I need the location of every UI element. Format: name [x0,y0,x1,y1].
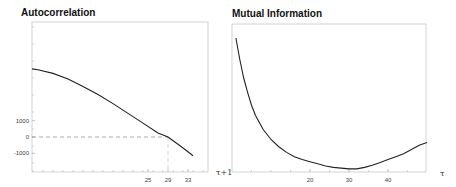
charts-canvas: 10000-1000 252933 τ+1 203040 τ [0,0,456,187]
mutual-information-x-tick-label: 30 [346,177,353,183]
autocorrelation-x-tick-label: 29 [165,177,172,183]
autocorrelation-frame [32,22,208,172]
autocorrelation-y-tick-label: -1000 [14,150,30,156]
mutual-information-x-tick-label: 20 [307,177,314,183]
autocorrelation-plot: 10000-1000 252933 τ+1 [14,22,233,183]
mutual-information-plot: 203040 τ [232,24,445,183]
autocorrelation-x-tick-label: 25 [145,177,152,183]
mutual-information-x-tick-label: 40 [385,177,392,183]
autocorrelation-series-line [32,69,193,156]
autocorrelation-xlabel: τ+1 [216,168,232,177]
mutual-information-xlabel: τ [440,169,445,178]
mutual-information-frame [232,24,426,172]
autocorrelation-x-tick-label: 33 [185,177,192,183]
autocorrelation-y-tick-label: 1000 [16,118,30,124]
mutual-information-series-line [236,38,427,169]
autocorrelation-y-tick-label: 0 [26,134,30,140]
